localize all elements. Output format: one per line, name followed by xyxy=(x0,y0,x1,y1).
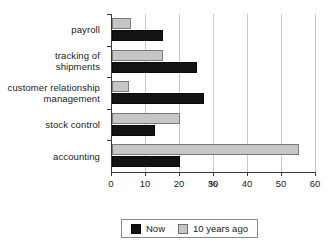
category-label-3: stock control xyxy=(0,119,100,130)
bar-10-years-ago-3 xyxy=(112,113,180,124)
plot-area: 0102030405060 xyxy=(111,14,315,172)
bar-now-1 xyxy=(112,62,197,73)
chart-legend: Now 10 years ago xyxy=(121,219,258,238)
bar-10-years-ago-1 xyxy=(112,50,163,61)
bar-now-4 xyxy=(112,156,180,167)
x-tick-30 xyxy=(213,172,214,176)
gridline-60 xyxy=(315,14,316,172)
category-label-4: accounting xyxy=(0,151,100,162)
x-tick-20 xyxy=(179,172,180,176)
legend-swatch-now xyxy=(131,224,141,234)
category-label-1: tracking ofshipments xyxy=(0,50,100,72)
bar-now-0 xyxy=(112,30,163,41)
x-tick-50 xyxy=(281,172,282,176)
bar-now-2 xyxy=(112,93,204,104)
bar-10-years-ago-0 xyxy=(112,18,131,29)
y-tick-3 xyxy=(107,109,111,110)
category-label-2: customer relationshipmanagement xyxy=(0,82,100,104)
legend-entry-now: Now xyxy=(131,223,165,234)
legend-swatch-10-years-ago xyxy=(178,224,188,234)
bar-chart: payrolltracking ofshipmentscustomer rela… xyxy=(0,0,331,243)
x-tick-10 xyxy=(145,172,146,176)
y-tick-1 xyxy=(107,46,111,47)
bar-now-3 xyxy=(112,125,155,136)
legend-label-10-years-ago: 10 years ago xyxy=(193,223,248,234)
y-tick-2 xyxy=(107,77,111,78)
x-axis-title: % xyxy=(111,178,315,189)
category-axis-labels: payrolltracking ofshipmentscustomer rela… xyxy=(0,14,104,172)
x-tick-0 xyxy=(111,172,112,176)
x-tick-40 xyxy=(247,172,248,176)
bar-10-years-ago-4 xyxy=(112,144,299,155)
y-tick-0 xyxy=(107,14,111,15)
category-label-0: payroll xyxy=(0,24,100,35)
bar-10-years-ago-2 xyxy=(112,81,129,92)
legend-entry-10-years-ago: 10 years ago xyxy=(178,223,248,234)
x-tick-60 xyxy=(315,172,316,176)
legend-label-now: Now xyxy=(146,223,165,234)
y-tick-4 xyxy=(107,140,111,141)
